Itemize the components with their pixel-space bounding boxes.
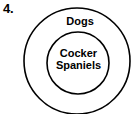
item-number-label: 4. bbox=[3, 2, 13, 16]
outer-set-label: Dogs bbox=[47, 15, 113, 27]
inner-set-label-line-2: Spaniels bbox=[48, 59, 109, 71]
inner-set-label: Cocker Spaniels bbox=[48, 47, 109, 71]
nested-set-diagram-figure: 4. Dogs Cocker Spaniels bbox=[0, 0, 135, 114]
inner-set-label-line-1: Cocker bbox=[48, 47, 109, 59]
